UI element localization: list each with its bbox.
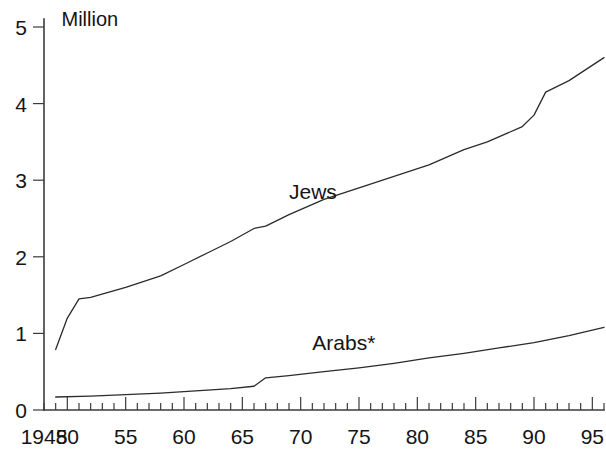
x-tick-label: 90 xyxy=(522,425,545,448)
x-tick-label: 70 xyxy=(289,425,312,448)
x-tick-label: 75 xyxy=(347,425,370,448)
axis-tick-labels: 012345194850556065707580859095 xyxy=(15,16,604,448)
x-tick-label: 55 xyxy=(114,425,137,448)
x-tick-label: 80 xyxy=(406,425,429,448)
y-tick-label: 0 xyxy=(15,399,27,422)
y-tick-label: 4 xyxy=(15,93,27,116)
series-label-jews: Jews xyxy=(289,180,337,203)
x-tick-label: 85 xyxy=(464,425,487,448)
x-tick-label: 65 xyxy=(231,425,254,448)
unit-label: Million xyxy=(62,8,119,30)
chart-container: 012345194850556065707580859095 JewsArabs… xyxy=(0,0,606,464)
x-tick-label: 60 xyxy=(172,425,195,448)
x-tick-label: 50 xyxy=(56,425,79,448)
y-tick-label: 2 xyxy=(15,246,27,269)
x-tick-label: 95 xyxy=(581,425,604,448)
y-tick-label: 3 xyxy=(15,169,27,192)
series-annotations: JewsArabs*Million xyxy=(62,8,376,354)
series-label-arabs: Arabs* xyxy=(312,331,375,354)
series-line-jews xyxy=(56,58,604,350)
population-line-chart: 012345194850556065707580859095 JewsArabs… xyxy=(0,0,606,464)
y-tick-label: 5 xyxy=(15,16,27,39)
y-tick-label: 1 xyxy=(15,322,27,345)
